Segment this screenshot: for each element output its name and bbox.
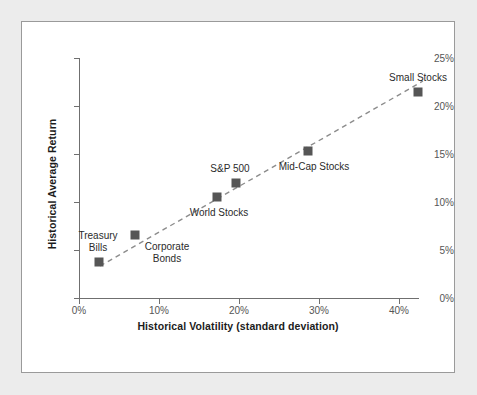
x-tick-label-0: 0% [72,305,86,316]
y-tick-0 [74,298,79,299]
y-axis-title: Historical Average Return [46,99,58,269]
data-point-corporate-bonds[interactable] [131,231,140,240]
data-label-world-stocks: World Stocks [190,207,249,219]
x-tick-label-30: 30% [309,305,329,316]
data-label-corporate-bonds-line1: Corporate [145,241,189,253]
y-tick-25 [74,58,79,59]
data-label-treasury-bills-line1: Treasury [78,230,117,242]
chart-card: 0% 10% 20% 30% 40% 0% 5% 10% 15% 20% 25% [21,21,455,373]
data-label-treasury-bills-line2: Bills [78,242,117,254]
y-tick-20 [74,106,79,107]
x-tick-label-20: 20% [229,305,249,316]
x-tick-30 [319,299,320,304]
x-tick-label-10: 10% [149,305,169,316]
data-label-corporate-bonds: Corporate Bonds [145,241,189,265]
y-tick-10 [74,202,79,203]
x-tick-40 [399,299,400,304]
data-label-mid-cap-stocks: Mid-Cap Stocks [279,161,350,173]
scatter-plot: 0% 10% 20% 30% 40% 0% 5% 10% 15% 20% 25% [22,22,454,372]
data-point-small-stocks[interactable] [414,88,423,97]
data-label-sp500: S&P 500 [210,163,249,175]
x-tick-20 [239,299,240,304]
data-point-sp500[interactable] [232,179,241,188]
y-tick-label-10: 10% [408,197,454,208]
data-label-corporate-bonds-line2: Bonds [145,253,189,265]
chart-page: 0% 10% 20% 30% 40% 0% 5% 10% 15% 20% 25% [0,0,477,395]
y-tick-label-5: 5% [408,245,454,256]
y-tick-15 [74,154,79,155]
data-label-treasury-bills: Treasury Bills [78,230,117,254]
data-label-small-stocks: Small Stocks [389,72,447,84]
y-tick-label-15: 15% [408,149,454,160]
x-tick-0 [79,299,80,304]
x-axis-title: Historical Volatility (standard deviatio… [22,320,454,332]
x-tick-label-40: 40% [389,305,409,316]
y-tick-label-25: 25% [408,53,454,64]
x-tick-10 [159,299,160,304]
data-point-world-stocks[interactable] [213,193,222,202]
y-tick-label-20: 20% [408,101,454,112]
y-tick-label-0: 0% [408,293,454,304]
y-axis-line [79,58,80,299]
data-point-mid-cap-stocks[interactable] [304,147,313,156]
x-axis-line [79,298,419,299]
data-point-treasury-bills[interactable] [95,258,104,267]
